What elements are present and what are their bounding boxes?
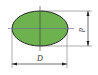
label-d: d: [77, 28, 86, 33]
arrow-down-icon: [87, 41, 90, 46]
arrow-left-icon: [12, 63, 17, 66]
label-D: D: [36, 54, 43, 63]
arrow-right-icon: [62, 63, 67, 66]
ellipse-dimension-diagram: d D: [0, 0, 98, 75]
arrow-up-icon: [87, 11, 90, 16]
